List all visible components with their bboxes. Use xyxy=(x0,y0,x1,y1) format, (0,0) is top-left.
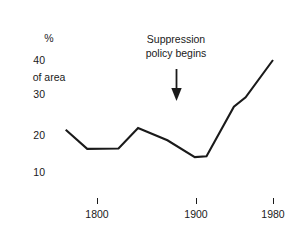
x-tick-1900: 1900 xyxy=(176,198,216,220)
x-tick-1980: 1980 xyxy=(253,198,293,220)
x-tick-label-1980: 1980 xyxy=(253,208,293,220)
x-tick-mark-1900 xyxy=(196,198,197,204)
fire-area-line-chart: % of area 40 30 20 10 Suppression policy… xyxy=(0,0,298,240)
x-tick-1800: 1800 xyxy=(77,198,117,220)
x-tick-label-1900: 1900 xyxy=(176,208,216,220)
data-series-line xyxy=(66,60,273,157)
x-tick-mark-1980 xyxy=(273,198,274,204)
x-tick-mark-1800 xyxy=(97,198,98,204)
annotation-arrow-icon xyxy=(171,69,181,101)
x-tick-label-1800: 1800 xyxy=(77,208,117,220)
